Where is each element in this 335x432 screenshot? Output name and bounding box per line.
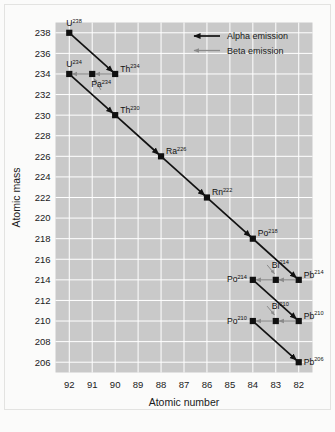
y-tick-label: 236 xyxy=(35,48,51,59)
nuclide-symbol: Pb xyxy=(304,270,315,280)
nuclide-marker[interactable] xyxy=(66,71,72,77)
nuclide-marker[interactable] xyxy=(204,194,210,200)
nuclide-marker[interactable] xyxy=(296,277,302,283)
nuclide-symbol: Pb xyxy=(304,357,315,367)
decay-chain-chart: U238Th234Pa234U234Th230Ra226Rn222Po218Pb… xyxy=(0,0,335,432)
x-tick-label: 86 xyxy=(202,379,213,390)
nuclide-marker[interactable] xyxy=(112,71,118,77)
x-tick-label: 92 xyxy=(64,379,75,390)
nuclide-mass-number: 206 xyxy=(314,356,323,362)
nuclide-mass-number: 234 xyxy=(130,63,139,69)
nuclide-marker[interactable] xyxy=(296,359,302,365)
y-tick-label: 232 xyxy=(35,89,51,100)
nuclide-mass-number: 210 xyxy=(279,301,288,307)
nuclide-symbol: Ra xyxy=(166,146,177,156)
nuclide-marker[interactable] xyxy=(250,277,256,283)
y-tick-label: 222 xyxy=(35,192,51,203)
nuclide-mass-number: 218 xyxy=(268,228,277,234)
y-tick-label: 216 xyxy=(35,254,51,265)
y-tick-label: 234 xyxy=(35,68,51,79)
y-tick-label: 214 xyxy=(35,274,51,285)
nuclide-mass-number: 210 xyxy=(314,310,323,316)
x-tick-label: 89 xyxy=(133,379,144,390)
x-tick-label: 91 xyxy=(87,379,98,390)
nuclide-mass-number: 214 xyxy=(279,259,288,265)
y-tick-label: 224 xyxy=(35,171,51,182)
nuclide-symbol: Po xyxy=(258,228,269,238)
nuclide-symbol: Bi xyxy=(272,260,280,270)
x-axis-title: Atomic number xyxy=(149,396,220,408)
y-tick-label: 210 xyxy=(35,315,51,326)
nuclide-mass-number: 234 xyxy=(72,59,81,65)
nuclide-symbol: Po xyxy=(227,316,238,326)
legend-label: Alpha emission xyxy=(227,31,288,41)
x-tick-label: 83 xyxy=(270,379,281,390)
nuclide-marker[interactable] xyxy=(89,71,95,77)
nuclide-marker[interactable] xyxy=(273,318,279,324)
y-tick-label: 230 xyxy=(35,110,51,121)
nuclide-symbol: Pb xyxy=(304,311,315,321)
x-tick-label: 90 xyxy=(110,379,121,390)
x-tick-label: 88 xyxy=(156,379,167,390)
nuclide-symbol: Th xyxy=(120,64,130,74)
nuclide-mass-number: 214 xyxy=(314,269,323,275)
y-tick-label: 218 xyxy=(35,233,51,244)
nuclide-mass-number: 222 xyxy=(223,187,232,193)
nuclide-symbol: Bi xyxy=(272,301,280,311)
x-tick-label: 82 xyxy=(293,379,304,390)
nuclide-marker[interactable] xyxy=(112,112,118,118)
nuclide-mass-number: 214 xyxy=(237,274,246,280)
nuclide-symbol: Rn xyxy=(212,187,223,197)
nuclide-marker[interactable] xyxy=(250,318,256,324)
nuclide-marker[interactable] xyxy=(273,277,279,283)
y-tick-label: 208 xyxy=(35,336,51,347)
nuclide-mass-number: 226 xyxy=(177,146,186,152)
y-tick-label: 212 xyxy=(35,295,51,306)
nuclide-mass-number: 230 xyxy=(130,105,139,111)
nuclide-marker[interactable] xyxy=(250,236,256,242)
x-tick-label: 84 xyxy=(248,379,259,390)
legend-label: Beta emission xyxy=(227,46,284,56)
nuclide-marker[interactable] xyxy=(66,30,72,36)
nuclide-symbol: Pa xyxy=(91,79,102,89)
y-tick-label: 228 xyxy=(35,130,51,141)
y-axis-ticks: 2382362342322302282262242222202182162142… xyxy=(35,27,51,367)
nuclide-symbol: Th xyxy=(120,105,130,115)
y-axis-title: Atomic mass xyxy=(10,167,22,227)
y-tick-label: 238 xyxy=(35,27,51,38)
y-tick-label: 220 xyxy=(35,212,51,223)
nuclide-mass-number: 234 xyxy=(102,79,111,85)
y-tick-label: 226 xyxy=(35,151,51,162)
nuclide-mass-number: 210 xyxy=(237,315,246,321)
nuclide-marker[interactable] xyxy=(296,318,302,324)
decay-chain-figure: U238Th234Pa234U234Th230Ra226Rn222Po218Pb… xyxy=(0,0,335,432)
nuclide-marker[interactable] xyxy=(158,153,164,159)
y-tick-label: 206 xyxy=(35,357,51,368)
x-tick-label: 87 xyxy=(179,379,190,390)
x-tick-label: 85 xyxy=(225,379,236,390)
nuclide-mass-number: 238 xyxy=(72,18,81,24)
nuclide-symbol: Po xyxy=(227,274,238,284)
